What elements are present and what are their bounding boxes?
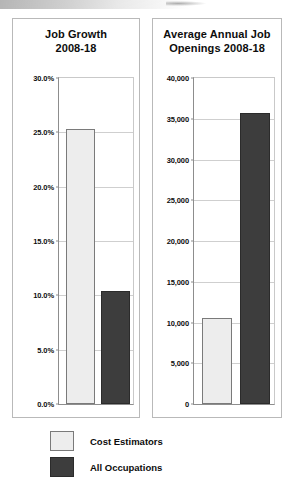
y-axis-tick-mark <box>56 186 59 187</box>
y-axis-tick-mark <box>191 200 194 201</box>
plot-area-job-openings: 05,00010,00015,00020,00025,00030,00035,0… <box>193 77 275 405</box>
legend-item-cost-estimators: Cost Estimators <box>50 430 220 452</box>
y-axis-tick-label: 5,000 <box>171 359 189 368</box>
legend-swatch-cost-estimators <box>50 431 74 451</box>
y-axis-tick-label: 20,000 <box>167 237 189 246</box>
legend-label-all-occupations: All Occupations <box>90 462 162 473</box>
y-axis-tick-mark <box>191 159 194 160</box>
y-axis-tick-mark <box>191 322 194 323</box>
y-axis-tick-label: 15.0% <box>33 237 54 246</box>
y-axis-tick-mark <box>56 132 59 133</box>
chart-panel-job-growth: Job Growth 2008-18 0.0%5.0%10.0%15.0%20.… <box>12 18 140 418</box>
bar-all-occupations <box>240 113 270 404</box>
y-axis-tick-label: 5.0% <box>37 345 54 354</box>
y-axis-tick-label: 30.0% <box>33 74 54 83</box>
y-axis-tick-label: 35,000 <box>167 114 189 123</box>
y-axis-tick-label: 0 <box>185 400 189 409</box>
chart-title-line-1: Average Annual Job <box>163 28 270 40</box>
y-axis-tick-label: 30,000 <box>167 155 189 164</box>
y-axis-tick-mark <box>191 78 194 79</box>
y-axis-tick-label: 10,000 <box>167 318 189 327</box>
y-axis-tick-mark <box>56 349 59 350</box>
chart-title-line-1: Job Growth <box>45 28 107 40</box>
y-axis-tick-mark <box>56 241 59 242</box>
y-axis-tick-mark <box>191 404 194 405</box>
chart-panel-job-openings: Average Annual Job Openings 2008-18 05,0… <box>152 18 282 418</box>
y-axis-tick-mark <box>191 118 194 119</box>
legend-item-all-occupations: All Occupations <box>50 456 220 478</box>
scan-artifact-smudge <box>0 0 190 9</box>
chart-title-line-2: 2008-18 <box>13 41 139 55</box>
bar-cost-estimators <box>202 318 232 404</box>
y-axis-tick-label: 10.0% <box>33 291 54 300</box>
bar-cost-estimators <box>66 129 95 404</box>
y-axis-tick-mark <box>56 404 59 405</box>
plot-area-job-growth: 0.0%5.0%10.0%15.0%20.0%25.0%30.0% <box>58 77 134 405</box>
legend-label-cost-estimators: Cost Estimators <box>90 436 163 447</box>
chart-title-line-2: Openings 2008-18 <box>153 41 281 55</box>
bar-all-occupations <box>101 291 130 404</box>
chart-legend: Cost Estimators All Occupations <box>50 430 220 482</box>
y-axis-tick-label: 0.0% <box>37 400 54 409</box>
y-axis-tick-label: 40,000 <box>167 74 189 83</box>
chart-title-job-openings: Average Annual Job Openings 2008-18 <box>153 27 281 55</box>
scan-artifact-speck <box>166 1 206 6</box>
chart-title-job-growth: Job Growth 2008-18 <box>13 27 139 55</box>
y-axis-tick-mark <box>191 281 194 282</box>
y-axis-tick-label: 25.0% <box>33 128 54 137</box>
y-axis-tick-label: 20.0% <box>33 182 54 191</box>
y-axis-tick-mark <box>56 78 59 79</box>
y-axis-tick-label: 15,000 <box>167 277 189 286</box>
y-axis-tick-mark <box>191 363 194 364</box>
y-axis-tick-label: 25,000 <box>167 196 189 205</box>
y-axis-tick-mark <box>191 241 194 242</box>
y-axis-tick-mark <box>56 295 59 296</box>
legend-swatch-all-occupations <box>50 457 74 477</box>
